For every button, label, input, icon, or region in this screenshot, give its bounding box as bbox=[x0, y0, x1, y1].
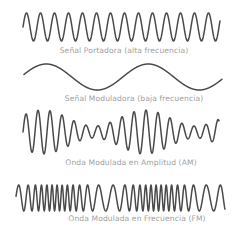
waveform-canvas bbox=[0, 0, 243, 237]
modulating-wave-label: Señal Moduladora (baja frecuencia) bbox=[65, 94, 203, 103]
am-wave-label: Onda Modulada en Amplitud (AM) bbox=[65, 158, 196, 167]
modulating-wave bbox=[24, 64, 222, 90]
modulation-diagram: Señal Portadora (alta frecuencia) Señal … bbox=[0, 0, 243, 237]
carrier-wave bbox=[23, 13, 220, 41]
am-wave bbox=[23, 110, 219, 154]
fm-wave bbox=[16, 185, 225, 211]
fm-wave-label: Onda Modulada en Frecuencia (FM) bbox=[68, 214, 205, 223]
carrier-wave-label: Señal Portadora (alta frecuencia) bbox=[60, 46, 189, 55]
